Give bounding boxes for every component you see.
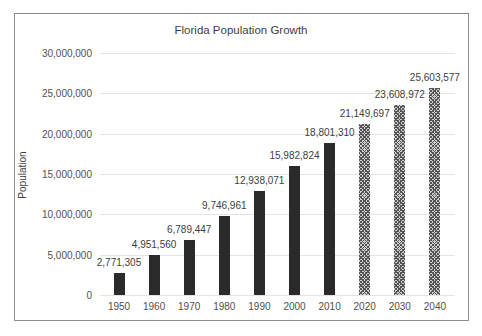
bar-2030 bbox=[394, 105, 405, 295]
data-label: 4,951,560 bbox=[132, 239, 177, 250]
data-label: 6,789,447 bbox=[167, 224, 212, 235]
data-label: 25,603,577 bbox=[410, 72, 460, 83]
data-label: 12,938,071 bbox=[234, 175, 284, 186]
y-tick-label: 25,000,000 bbox=[42, 88, 92, 99]
y-tick-label: 30,000,000 bbox=[42, 48, 92, 59]
bar-1990 bbox=[254, 191, 265, 295]
x-tick-label: 1990 bbox=[248, 301, 270, 312]
data-label: 9,746,961 bbox=[202, 200, 247, 211]
data-label: 23,608,972 bbox=[375, 89, 425, 100]
bar-1960 bbox=[149, 255, 160, 295]
x-tick-label: 1970 bbox=[178, 301, 200, 312]
bar-2000 bbox=[289, 166, 300, 295]
x-tick-label: 2010 bbox=[318, 301, 340, 312]
bar-1980 bbox=[219, 216, 230, 295]
data-label: 18,801,310 bbox=[305, 127, 355, 138]
y-tick-label: 20,000,000 bbox=[42, 128, 92, 139]
bar-2010 bbox=[324, 143, 335, 295]
y-axis-label: Population bbox=[17, 151, 28, 198]
x-tick-label: 1950 bbox=[108, 301, 130, 312]
y-tick-label: 5,000,000 bbox=[48, 249, 93, 260]
data-label: 15,982,824 bbox=[269, 150, 319, 161]
y-tick-label: 10,000,000 bbox=[42, 209, 92, 220]
x-tick-label: 2020 bbox=[354, 301, 376, 312]
x-tick-label: 2000 bbox=[283, 301, 305, 312]
y-tick-label: 15,000,000 bbox=[42, 169, 92, 180]
bar-1950 bbox=[114, 273, 125, 295]
x-tick-label: 2030 bbox=[389, 301, 411, 312]
x-tick-label: 2040 bbox=[424, 301, 446, 312]
bar-2040 bbox=[429, 88, 440, 295]
x-tick-label: 1960 bbox=[143, 301, 165, 312]
x-tick-label: 1980 bbox=[213, 301, 235, 312]
chart-title: Florida Population Growth bbox=[0, 24, 482, 36]
bar-2020 bbox=[359, 124, 370, 295]
bar-1970 bbox=[184, 240, 195, 295]
data-label: 2,771,305 bbox=[97, 257, 142, 268]
gridline bbox=[100, 295, 455, 296]
y-tick-label: 0 bbox=[86, 290, 92, 301]
gridline bbox=[100, 53, 455, 54]
data-label: 21,149,697 bbox=[340, 108, 390, 119]
